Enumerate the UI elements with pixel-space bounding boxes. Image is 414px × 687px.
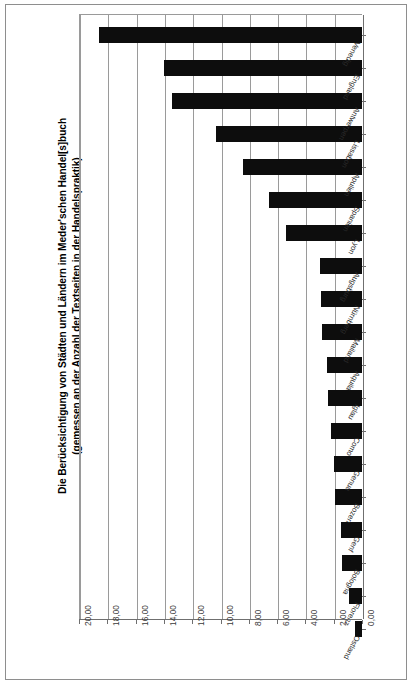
value-tick (107, 620, 108, 624)
value-tick-label: 8,00 (253, 610, 263, 626)
bar-row (80, 52, 362, 85)
value-tick-label: 10,00 (225, 605, 235, 626)
value-tick (249, 620, 250, 624)
value-tick-label: 14,00 (168, 605, 178, 626)
chart-frame: Die Berücksichtigung von Städten und Län… (5, 4, 407, 680)
value-tick-label: 6,00 (281, 610, 291, 626)
value-tick (221, 620, 222, 624)
category-axis-labels: VenedigEnglandAntwerpenLissabonApulienSp… (362, 14, 414, 634)
value-tick-label: 2,00 (338, 610, 348, 626)
value-tick-label: 18,00 (111, 605, 121, 626)
value-axis: 20,0018,0016,0014,0012,0010,008,006,004,… (79, 619, 362, 631)
value-tick (192, 620, 193, 624)
value-tick-label: 12,00 (196, 605, 206, 626)
value-tick (164, 620, 165, 624)
chart-title-line-1: Die Berücksichtigung von Städten und Län… (57, 118, 68, 494)
value-tick-label: 0,00 (366, 610, 376, 626)
value-tick (136, 620, 137, 624)
value-tick-label: 4,00 (309, 610, 319, 626)
value-tick-label: 20,00 (83, 605, 93, 626)
value-tick (79, 620, 80, 624)
bar-row (80, 19, 362, 52)
value-tick (362, 620, 363, 624)
value-tick-label: 16,00 (140, 605, 150, 626)
bar (164, 60, 362, 76)
value-tick (277, 620, 278, 624)
value-tick (334, 620, 335, 624)
bar (99, 27, 362, 43)
value-tick (305, 620, 306, 624)
